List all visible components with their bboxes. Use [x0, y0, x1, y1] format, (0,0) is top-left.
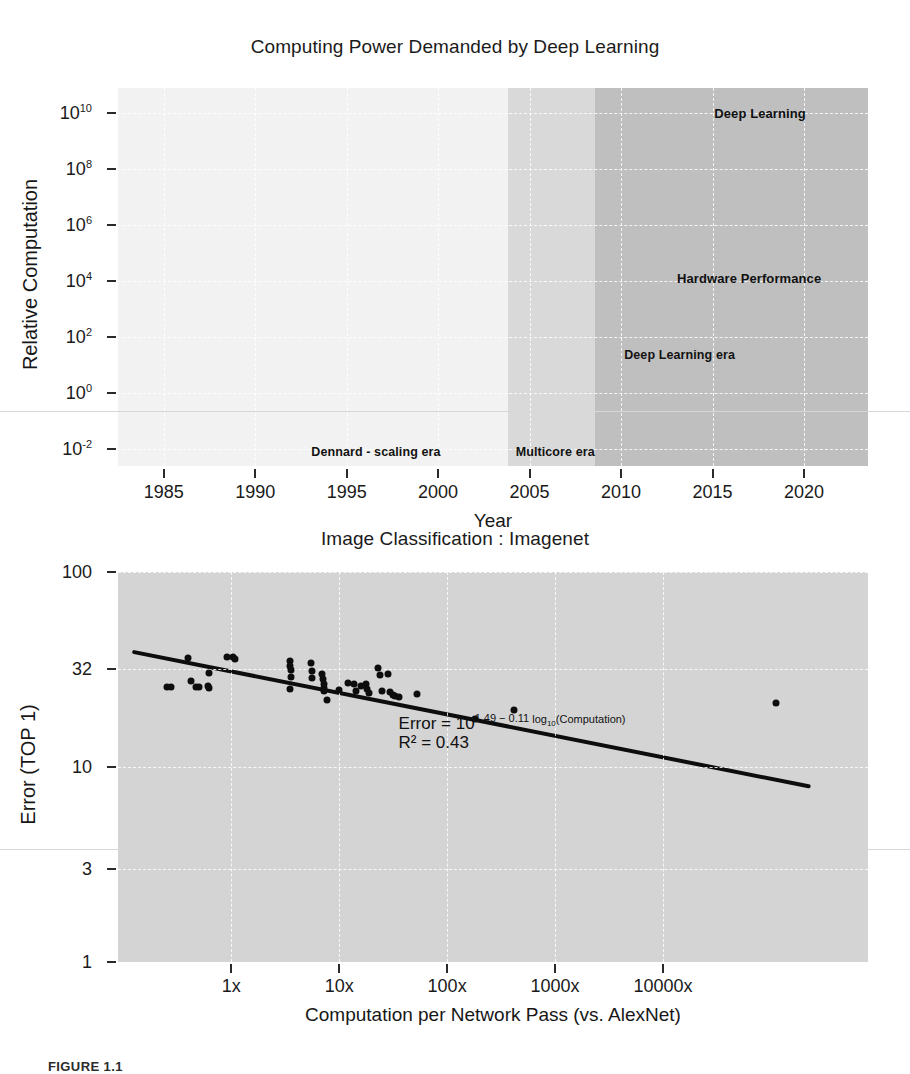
chart1-title: Computing Power Demanded by Deep Learnin… [0, 36, 910, 58]
chart1-x-tick-mark [163, 469, 165, 478]
chart1-gridline-h [118, 393, 868, 394]
chart1-x-tick-mark [712, 469, 714, 478]
chart2-x-tick-label: 10000x [633, 976, 692, 997]
figure-caption-label: FIGURE 1.1 [48, 1059, 123, 1074]
chart1-gridline-h [118, 449, 868, 450]
chart1-gridline-h [118, 225, 868, 226]
chart1-x-tick-mark [529, 469, 531, 478]
chart1-x-tick-label: 1985 [144, 482, 184, 503]
chart2-x-tick-mark [338, 964, 340, 973]
scatter-point [379, 687, 386, 694]
chart1-era-band-2 [508, 88, 596, 466]
chart1-era-band-1 [118, 88, 508, 466]
chart1-y-tick-label: 100 [66, 383, 92, 404]
chart1-gridline-v [621, 88, 622, 466]
chart2-y-tick-label: 100 [62, 562, 92, 583]
chart1-x-tick-label: 2010 [601, 482, 641, 503]
chart2-y-tick-label: 10 [72, 757, 92, 778]
chart2-x-tick-mark [230, 964, 232, 973]
chart1-x-tick-mark [254, 469, 256, 478]
chart1-x-tick-mark [437, 469, 439, 478]
chart2-x-tick-mark [662, 964, 664, 973]
chart1-y-tick-mark [107, 392, 116, 394]
scatter-point [384, 671, 391, 678]
chart1-plot-area: Deep LearningHardware PerformanceDeep Le… [118, 88, 868, 466]
chart1-y-tick-label: 108 [66, 159, 92, 180]
chart2-y-tick-mark [107, 668, 116, 670]
chart2-x-tick-mark [554, 964, 556, 973]
chart1-x-tick-label: 2005 [510, 482, 550, 503]
chart2-x-tick-label: 10x [325, 976, 354, 997]
chart1-gridline-v [347, 88, 348, 466]
scatter-point [167, 684, 174, 691]
scatter-point [321, 687, 328, 694]
scatter-point [231, 655, 238, 662]
chart1-x-tick-label: 1995 [327, 482, 367, 503]
chart2-y-tick-mark [107, 766, 116, 768]
chart2-y-tick-mark [107, 961, 116, 963]
chart2-title: Image Classification : Imagenet [0, 528, 910, 550]
chart2-gridline-v [447, 572, 448, 962]
scatter-point [287, 686, 294, 693]
chart1-annotation-multicore-era: Multicore era [516, 445, 595, 459]
chart1-x-tick-label: 2015 [692, 482, 732, 503]
chart-computing-power: Computing Power Demanded by Deep Learnin… [0, 36, 910, 506]
chart1-y-axis-label: Relative Computation [19, 145, 42, 405]
chart2-x-tick-label: 1000x [531, 976, 580, 997]
chart-image-classification: Image Classification : Imagenet Error (T… [0, 528, 910, 1028]
scatter-point [773, 699, 780, 706]
chart1-y-tick-label: 104 [66, 271, 92, 292]
chart1-y-tick-mark [107, 336, 116, 338]
chart1-annotation-dennard-scaling-era: Dennard - scaling era [311, 445, 440, 459]
scatter-point [375, 664, 382, 671]
chart1-y-tick-mark [107, 112, 116, 114]
chart2-gridline-v [555, 572, 556, 962]
chart1-y-tick-mark [107, 448, 116, 450]
chart2-x-tick-label: 100x [428, 976, 467, 997]
chart2-x-tick-mark [446, 964, 448, 973]
scatter-point [309, 675, 316, 682]
chart1-y-tick-mark [107, 280, 116, 282]
chart1-gridline-h [118, 169, 868, 170]
scatter-point [366, 689, 373, 696]
chart1-gridline-v [438, 88, 439, 466]
chart1-gridline-v [530, 88, 531, 466]
chart1-y-tick-mark [107, 168, 116, 170]
chart2-x-axis-label: Computation per Network Pass (vs. AlexNe… [118, 1004, 868, 1026]
chart1-y-tick-label: 1010 [60, 103, 92, 124]
chart1-annotation-deep-learning-era: Deep Learning era [624, 348, 735, 362]
chart1-gridline-h [118, 337, 868, 338]
chart2-x-tick-label: 1x [222, 976, 241, 997]
chart1-x-tick-label: 2020 [784, 482, 824, 503]
chart1-y-tick-label: 102 [66, 327, 92, 348]
page-rule-top [0, 411, 910, 412]
scatter-point [206, 685, 213, 692]
chart2-r-squared-annotation: R² = 0.43 [399, 733, 469, 753]
chart1-gridline-v [255, 88, 256, 466]
chart2-y-tick-label: 3 [82, 858, 92, 879]
chart2-gridline-v [231, 572, 232, 962]
chart2-gridline-v [339, 572, 340, 962]
scatter-point [205, 670, 212, 677]
chart2-y-tick-label: 32 [72, 658, 92, 679]
chart1-x-tick-label: 2000 [418, 482, 458, 503]
chart1-y-tick-mark [107, 224, 116, 226]
chart2-equation-annotation: Error = 101.49 − 0.11 log10(Computation) [399, 714, 626, 734]
scatter-point [308, 659, 315, 666]
scatter-point [287, 674, 294, 681]
scatter-point [195, 684, 202, 691]
scatter-point [336, 686, 343, 693]
scatter-point [324, 696, 331, 703]
scatter-point [395, 693, 402, 700]
chart2-plot-area: Error = 101.49 − 0.11 log10(Computation)… [118, 572, 868, 962]
chart2-y-tick-label: 1 [82, 952, 92, 973]
chart1-gridline-v [164, 88, 165, 466]
scatter-point [185, 654, 192, 661]
chart2-y-axis-label: Error (TOP 1) [17, 645, 40, 885]
chart2-y-tick-mark [107, 571, 116, 573]
chart1-annotation-deep-learning: Deep Learning [714, 106, 806, 121]
chart1-annotation-hardware-performance: Hardware Performance [677, 271, 821, 286]
chart1-x-tick-mark [620, 469, 622, 478]
chart1-y-tick-label: 10-2 [62, 439, 92, 460]
